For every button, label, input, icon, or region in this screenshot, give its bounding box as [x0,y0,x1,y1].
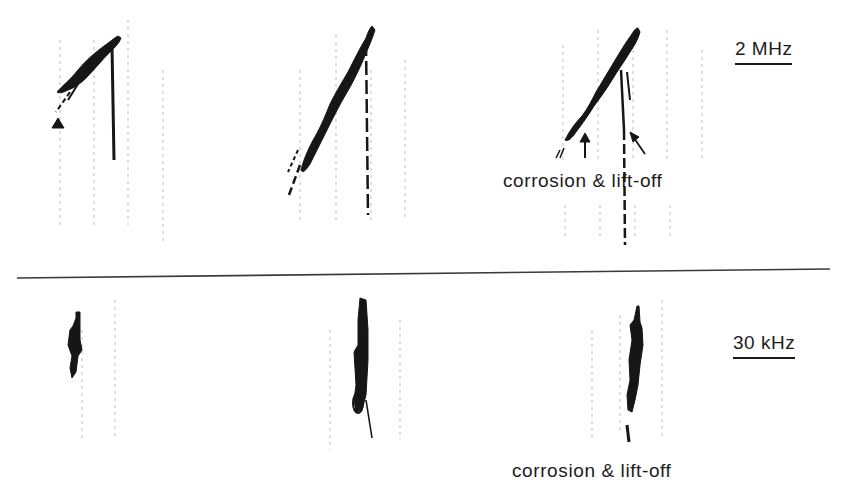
frequency-label-2mhz: 2 MHz [735,38,792,65]
trace-30khz-signal-2 [353,298,372,438]
frequency-label-30khz-text: 30 kHz [733,332,795,353]
annotation-corrosion-liftoff-top: corrosion & lift-off [503,170,662,192]
trace-30khz-signal-1 [68,312,82,378]
trace-2mhz-signal-2 [288,26,375,215]
grid-lines-bottom [82,300,662,450]
trace-2mhz-signal-1 [52,36,121,160]
eddy-current-figure: 2 MHz 30 kHz corrosion & lift-off corros… [0,0,848,496]
corrosion-arrow [580,133,590,158]
grid-lines-top [60,20,702,245]
frequency-label-underline [735,63,792,65]
frequency-label-2mhz-text: 2 MHz [735,38,792,59]
annotation-corrosion-liftoff-bottom: corrosion & lift-off [512,460,671,482]
row-divider [17,269,830,278]
lift-off-arrow [630,132,645,154]
impedance-plane-traces [0,0,848,496]
trace-30khz-signal-3 [627,306,643,442]
frequency-label-30khz: 30 kHz [733,332,795,359]
frequency-label-underline [733,357,795,359]
